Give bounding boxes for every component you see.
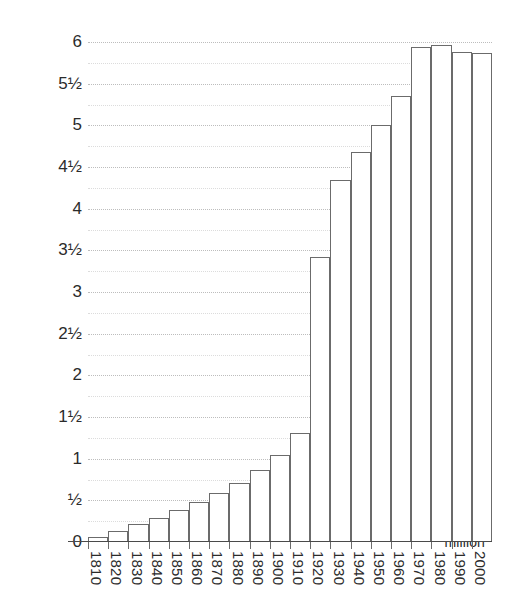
x-axis-tick — [270, 542, 271, 549]
x-axis-tick-label: 1910 — [291, 551, 306, 585]
x-axis-tick-label: 1890 — [251, 551, 266, 585]
bar — [310, 257, 330, 542]
x-axis-tick-label: 1930 — [332, 551, 347, 585]
y-axis-tick-label: 1 — [73, 450, 82, 467]
bar — [149, 518, 169, 542]
x-axis-tick — [411, 542, 412, 549]
x-axis-tick — [310, 542, 311, 549]
x-axis-tick — [371, 542, 372, 549]
x-axis-tick — [169, 542, 170, 549]
x-axis-tick — [149, 542, 150, 549]
x-axis-tick-label: 1940 — [352, 551, 367, 585]
x-axis-tick-label: 2000 — [473, 551, 488, 585]
x-axis-tick — [351, 542, 352, 549]
x-axis-line — [68, 541, 492, 542]
x-axis-tick-label: 1990 — [453, 551, 468, 585]
bar — [290, 433, 310, 542]
y-axis-tick-label: 3½ — [58, 241, 82, 258]
x-axis-tick — [229, 542, 230, 549]
bar — [351, 152, 371, 542]
x-axis-tick-label: 1950 — [372, 551, 387, 585]
x-axis-tick — [128, 542, 129, 549]
x-axis-tick — [452, 542, 453, 549]
x-axis-tick — [209, 542, 210, 549]
bar — [229, 483, 249, 542]
x-axis-tick — [108, 542, 109, 549]
x-axis-tick-label: 1830 — [130, 551, 145, 585]
bar — [270, 455, 290, 542]
x-axis-tick-label: 1920 — [311, 551, 326, 585]
x-axis-tick — [88, 542, 89, 549]
x-axis-tick-label: 1860 — [190, 551, 205, 585]
bar — [411, 47, 431, 542]
x-axis-tick-label: 1880 — [231, 551, 246, 585]
x-axis-tick — [250, 542, 251, 549]
x-axis-tick — [330, 542, 331, 549]
y-axis-tick-label: 3 — [73, 283, 82, 300]
y-axis-tick-label: 2 — [73, 366, 82, 383]
x-axis-tick — [189, 542, 190, 549]
x-axis-tick — [391, 542, 392, 549]
bar — [209, 493, 229, 542]
bar — [472, 53, 492, 542]
y-axis-tick-label: 4½ — [58, 158, 82, 175]
x-axis-tick-label: 1820 — [109, 551, 124, 585]
bar — [371, 125, 391, 542]
x-axis-tick-label: 1870 — [210, 551, 225, 585]
y-axis-tick-label: ½ — [68, 491, 82, 508]
bar — [189, 502, 209, 542]
x-axis-tick-label: 1810 — [89, 551, 104, 585]
bar — [391, 96, 411, 542]
plot-area — [88, 42, 492, 542]
bar-chart: 0½11½22½33½44½55½6 million 1810182018301… — [0, 0, 507, 610]
y-axis-tick-label: 1½ — [58, 408, 82, 425]
x-axis-tick — [472, 542, 473, 549]
bar — [169, 510, 189, 542]
x-axis-tick-label: 1850 — [170, 551, 185, 585]
x-axis-tick-label: 1840 — [150, 551, 165, 585]
y-axis-tick-label: 5½ — [58, 75, 82, 92]
bar — [250, 470, 270, 542]
x-axis-tick-label: 1970 — [412, 551, 427, 585]
y-axis-tick-label: 5 — [73, 116, 82, 133]
x-axis-tick-label: 1960 — [392, 551, 407, 585]
y-axis-tick-label: 2½ — [58, 325, 82, 342]
y-axis-labels: 0½11½22½33½44½55½6 — [0, 0, 82, 610]
x-axis-tick — [290, 542, 291, 549]
bar — [452, 52, 472, 542]
bar — [431, 45, 451, 542]
x-axis-tick — [431, 542, 432, 549]
y-axis-tick-label: 6 — [73, 33, 82, 50]
bar — [330, 180, 350, 542]
x-axis-tick-label: 1900 — [271, 551, 286, 585]
gridline-major — [88, 42, 492, 43]
bar — [128, 524, 148, 542]
x-axis-tick-label: 1980 — [433, 551, 448, 585]
y-axis-tick-label: 4 — [73, 200, 82, 217]
